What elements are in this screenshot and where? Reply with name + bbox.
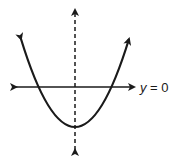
label-equation: = 0 <box>147 80 169 95</box>
line-label: y = 0 <box>139 80 169 95</box>
parabola-diagram: y = 0 <box>0 0 174 158</box>
